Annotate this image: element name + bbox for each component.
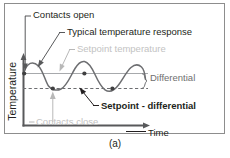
temperature-response-curve — [24, 61, 146, 91]
label-setpoint-minus-differential: Setpoint - differential — [101, 101, 196, 111]
label-contacts-close: Contacts close — [36, 117, 98, 127]
thermostat-differential-diagram — [0, 0, 230, 158]
marker-contacts-open-2 — [82, 71, 86, 75]
leader-setpoint-temperature-arrowhead — [60, 64, 65, 72]
figure-caption: (a) — [0, 138, 230, 149]
label-differential: Differential — [150, 73, 195, 83]
x-axis-label-time: Time — [148, 128, 169, 138]
label-setpoint-temperature: Setpoint temperature — [77, 44, 166, 54]
leader-typical-response-stem — [41, 33, 60, 62]
leader-setpoint-temperature-stem — [62, 50, 70, 66]
differential-brace — [143, 74, 148, 88]
label-typical-temperature-response: Typical temperature response — [67, 27, 192, 37]
y-axis-label-temperature: Temperature — [7, 53, 18, 129]
figure-container: Contacts open Typical temperature respon… — [0, 0, 230, 158]
leader-typical-response-arrowhead — [38, 60, 44, 68]
marker-contacts-close-1 — [51, 86, 55, 90]
leader-setpoint-differential-stem — [83, 92, 94, 105]
reference-lines-group — [23, 74, 148, 89]
marker-contacts-close-2 — [110, 86, 114, 90]
differential-brace-group — [143, 74, 148, 88]
leader-contacts-close-arrowhead — [50, 92, 56, 100]
marker-contacts-open-1 — [22, 71, 26, 75]
label-contacts-open: Contacts open — [33, 10, 94, 20]
temperature-response-curve-group — [24, 61, 146, 91]
